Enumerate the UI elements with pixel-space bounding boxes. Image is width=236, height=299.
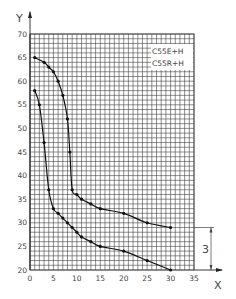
data-point bbox=[42, 141, 45, 144]
data-point bbox=[52, 207, 55, 210]
data-point bbox=[146, 221, 149, 224]
data-point bbox=[89, 240, 92, 243]
x-tick-label: 20 bbox=[119, 274, 129, 283]
data-point bbox=[68, 150, 71, 153]
data-point bbox=[61, 94, 64, 97]
y-tick-label: 20 bbox=[17, 266, 27, 275]
data-point bbox=[47, 65, 50, 68]
x-tick-label: 25 bbox=[142, 274, 152, 283]
data-point bbox=[33, 89, 36, 92]
chart: 05101520253035 2025303540455055606570 C5… bbox=[0, 0, 236, 299]
data-point bbox=[80, 235, 83, 238]
legend-item-0: C55E+H bbox=[152, 47, 183, 56]
data-point bbox=[169, 226, 172, 229]
data-point bbox=[52, 70, 55, 73]
data-point bbox=[38, 103, 41, 106]
data-point bbox=[146, 259, 149, 262]
y-tick-label: 55 bbox=[17, 100, 27, 109]
x-axis-label: X bbox=[214, 279, 222, 292]
data-point bbox=[42, 61, 45, 64]
y-tick-labels: 2025303540455055606570 bbox=[17, 30, 27, 275]
y-tick-label: 70 bbox=[17, 30, 27, 39]
data-point bbox=[75, 231, 78, 234]
x-tick-label: 30 bbox=[166, 274, 176, 283]
x-tick-labels: 05101520253035 bbox=[28, 274, 199, 283]
x-tick-label: 5 bbox=[51, 274, 56, 283]
y-tick-label: 30 bbox=[17, 218, 27, 227]
x-tick-label: 0 bbox=[28, 274, 33, 283]
data-point bbox=[99, 245, 102, 248]
x-tick-label: 15 bbox=[96, 274, 106, 283]
data-point bbox=[75, 193, 78, 196]
data-point bbox=[169, 268, 172, 271]
x-tick-label: 35 bbox=[189, 274, 199, 283]
y-tick-label: 65 bbox=[17, 53, 27, 62]
dimension-label: 3 bbox=[202, 243, 209, 256]
y-tick-label: 50 bbox=[17, 124, 27, 133]
data-point bbox=[80, 198, 83, 201]
data-point bbox=[47, 188, 50, 191]
x-tick-label: 10 bbox=[72, 274, 82, 283]
data-point bbox=[66, 117, 69, 120]
data-point bbox=[33, 56, 36, 59]
y-axis-label: Y bbox=[15, 12, 23, 25]
series-lines bbox=[33, 56, 172, 272]
y-tick-label: 35 bbox=[17, 195, 27, 204]
y-tick-label: 25 bbox=[17, 242, 27, 251]
data-point bbox=[122, 212, 125, 215]
data-point bbox=[71, 188, 74, 191]
legend-item-1: C55R+H bbox=[152, 59, 184, 68]
data-point bbox=[57, 212, 60, 215]
y-tick-label: 40 bbox=[17, 171, 27, 180]
legend: C55E+H C55R+H bbox=[151, 44, 193, 70]
data-point bbox=[66, 221, 69, 224]
dimension-annotation: 3 bbox=[194, 228, 214, 270]
data-point bbox=[89, 202, 92, 205]
y-tick-label: 45 bbox=[17, 148, 27, 157]
data-point bbox=[61, 216, 64, 219]
data-point bbox=[57, 80, 60, 83]
data-point bbox=[122, 250, 125, 253]
data-point bbox=[99, 207, 102, 210]
data-point bbox=[71, 226, 74, 229]
y-tick-label: 60 bbox=[17, 77, 27, 86]
